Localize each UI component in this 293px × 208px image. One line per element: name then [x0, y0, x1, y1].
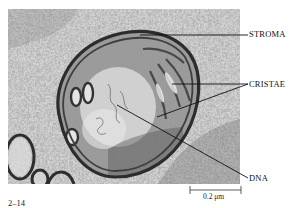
scale-bar-label: 0.2 μm: [203, 193, 224, 201]
electron-micrograph: [8, 9, 240, 184]
label-cristae: CRISTAE: [249, 80, 285, 89]
label-dna: DNA: [249, 174, 268, 183]
figure-number: 2–14: [8, 199, 25, 208]
figure: STROMA CRISTAE DNA 0.2 μm 2–14: [0, 0, 293, 208]
micrograph-image: [8, 9, 240, 184]
label-stroma: STROMA: [249, 30, 286, 39]
